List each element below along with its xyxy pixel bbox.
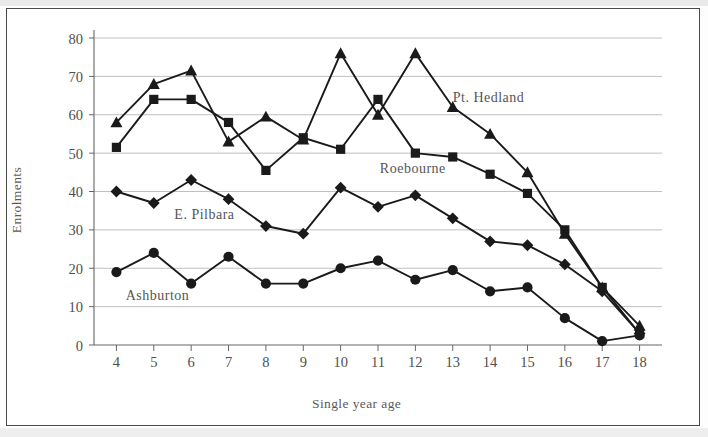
data-point-marker-square [448, 152, 457, 161]
data-point-marker-circle [336, 263, 346, 273]
data-point-marker-triangle [409, 47, 421, 58]
scan-edge-top [0, 0, 708, 6]
y-axis-tick-label: 10 [69, 299, 84, 315]
data-point-marker-circle [261, 279, 271, 289]
data-point-marker-circle [410, 275, 420, 285]
series-label-ashburton: Ashburton [126, 288, 190, 304]
data-point-marker-triangle [185, 65, 197, 76]
y-axis-tick-label: 20 [69, 261, 84, 277]
series-label-pt-hedland: Pt. Hedland [453, 90, 525, 106]
x-axis-tick-label: 15 [520, 354, 535, 370]
data-point-marker-square [112, 143, 121, 152]
data-point-marker-square [486, 170, 495, 179]
data-point-marker-circle [448, 265, 458, 275]
data-point-marker-circle [560, 313, 570, 323]
data-point-marker-diamond [484, 235, 496, 247]
data-point-marker-square [224, 118, 233, 127]
x-axis-tick-label: 16 [558, 354, 573, 370]
x-axis-tick-label: 4 [113, 354, 121, 370]
x-axis-title: Single year age [312, 396, 401, 412]
y-axis-tick-label: 60 [69, 107, 84, 123]
data-point-marker-triangle [335, 47, 347, 58]
x-axis-tick-label: 8 [262, 354, 269, 370]
data-point-marker-circle [597, 336, 607, 346]
data-point-marker-diamond [447, 212, 459, 224]
data-point-marker-diamond [185, 174, 197, 186]
x-axis-tick-label: 6 [188, 354, 195, 370]
x-axis-tick-label: 18 [632, 354, 647, 370]
data-point-marker-circle [485, 286, 495, 296]
x-axis-tick-label: 17 [595, 354, 610, 370]
data-point-marker-square [373, 95, 382, 104]
data-point-marker-diamond [148, 197, 160, 209]
y-axis-tick-label: 30 [69, 222, 84, 238]
data-point-marker-triangle [260, 111, 272, 122]
x-axis-tick-label: 13 [445, 354, 460, 370]
x-axis-tick-label: 5 [150, 354, 157, 370]
line-chart-plot: 0102030405060708045678910111213141516171… [6, 8, 700, 426]
data-point-marker-square [336, 145, 345, 154]
data-point-marker-circle [298, 279, 308, 289]
data-point-marker-circle [634, 330, 644, 340]
data-point-marker-square [523, 189, 532, 198]
data-point-marker-square [411, 149, 420, 158]
data-point-marker-square [187, 95, 196, 104]
y-axis-tick-label: 40 [69, 184, 84, 200]
data-point-marker-circle [111, 267, 121, 277]
x-axis-tick-label: 11 [371, 354, 385, 370]
x-axis-tick-label: 14 [483, 354, 498, 370]
y-axis-tick-label: 80 [69, 31, 84, 47]
data-point-marker-circle [373, 255, 383, 265]
data-point-marker-triangle [484, 128, 496, 139]
scan-edge-bottom [0, 428, 708, 437]
data-point-marker-triangle [223, 136, 235, 147]
data-point-marker-diamond [111, 186, 123, 198]
chart-figure: 0102030405060708045678910111213141516171… [0, 0, 708, 437]
x-axis-tick-label: 10 [333, 354, 348, 370]
data-point-marker-square [261, 166, 270, 175]
series-label-roebourne: Roebourne [380, 161, 446, 177]
data-point-marker-square [149, 95, 158, 104]
data-point-marker-diamond [522, 239, 534, 251]
data-point-marker-square [299, 133, 308, 142]
series-label-e-pilbara: E. Pilbara [174, 207, 234, 223]
data-point-marker-circle [149, 248, 159, 258]
x-axis-tick-label: 9 [300, 354, 307, 370]
data-point-marker-circle [522, 282, 532, 292]
y-axis-tick-label: 50 [69, 146, 84, 162]
y-axis-title: Enrolments [9, 167, 25, 233]
data-point-marker-square [560, 225, 569, 234]
data-point-marker-circle [223, 252, 233, 262]
data-point-marker-diamond [372, 201, 384, 213]
y-axis-tick-label: 0 [76, 338, 83, 354]
x-axis-tick-label: 12 [408, 354, 423, 370]
y-axis-tick-label: 70 [69, 69, 84, 85]
x-axis-tick-label: 7 [225, 354, 232, 370]
data-point-marker-triangle [372, 109, 384, 120]
